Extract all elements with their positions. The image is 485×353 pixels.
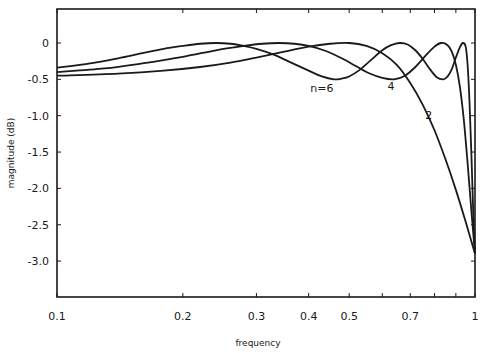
x-axis-title: frequency [235,338,281,348]
magnitude-response-chart: 0.10.20.30.40.50.71 0-0.5-1.0-1.5-2.0-2.… [0,0,485,353]
curves [57,43,475,254]
curve-n4 [57,43,475,254]
y-tick-label: -3.0 [28,255,49,268]
y-tick-label: -0.5 [28,73,49,86]
y-tick-label: -2.5 [28,219,49,232]
y-tick-label: -1.0 [28,110,49,123]
curve-labels: n=642 [310,80,432,123]
x-tick-label: 0.2 [174,310,192,323]
y-axis-ticks: 0-0.5-1.0-1.5-2.0-2.5-3.0 [28,37,475,268]
x-tick-label: 0.7 [402,310,420,323]
y-tick-label: -1.5 [28,146,49,159]
y-tick-label: 0 [42,37,49,50]
curve-label-n6: n=6 [310,82,333,95]
x-tick-label: 1 [472,310,479,323]
x-tick-label: 0.5 [340,310,358,323]
curve-n6 [57,43,475,254]
x-tick-label: 0.4 [300,310,318,323]
y-tick-label: -2.0 [28,182,49,195]
curve-label-n4: 4 [388,80,395,93]
curve-n2 [57,43,475,254]
curve-label-n2: 2 [425,109,432,122]
x-tick-label: 0.3 [248,310,266,323]
y-axis-title: magnitude (dB) [6,118,16,188]
x-tick-label: 0.1 [48,310,66,323]
